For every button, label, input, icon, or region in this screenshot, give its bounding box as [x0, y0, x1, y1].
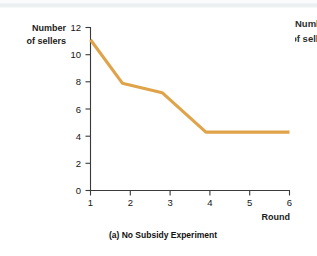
- x-axis-label: Round: [262, 212, 291, 222]
- x-tick-label-5: 5: [247, 197, 252, 208]
- x-tick-label-2: 2: [128, 197, 133, 208]
- line-chart: Number of sellers 0 2 4 6 8 10 12 1 2 3 …: [0, 0, 317, 256]
- y-tick-label-4: 4: [76, 131, 81, 142]
- y-tick-label-6: 6: [76, 104, 81, 115]
- neighbor-panel-label: Number of sellers: [295, 18, 317, 66]
- x-tick-label-4: 4: [207, 197, 212, 208]
- y-tick-label-8: 8: [76, 76, 81, 87]
- neighbor-label-line2: of sellers: [295, 33, 317, 44]
- x-tick-label-6: 6: [287, 197, 292, 208]
- y-axis-label-line1: Number: [32, 23, 67, 33]
- figure-panel-a: Number of sellers 0 2 4 6 8 10 12 1 2 3 …: [0, 0, 317, 256]
- y-axis-label-line2: of sellers: [26, 36, 66, 46]
- neighbor-label-line1: Number: [295, 18, 317, 29]
- y-tick-label-0: 0: [76, 185, 81, 196]
- y-tick-label-2: 2: [76, 158, 81, 169]
- x-tick-label-3: 3: [167, 197, 172, 208]
- figure-caption: (a) No Subsidy Experiment: [109, 230, 217, 240]
- y-tick-label-12: 12: [70, 22, 81, 33]
- data-series-number-of-sellers: [91, 40, 290, 132]
- axis-lines: [91, 27, 291, 191]
- y-tick-label-10: 10: [70, 49, 81, 60]
- x-tick-label-1: 1: [88, 197, 93, 208]
